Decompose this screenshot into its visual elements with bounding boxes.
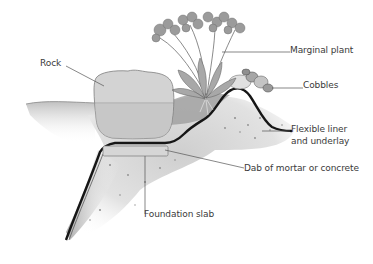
label-cobbles: Cobbles [303, 80, 338, 91]
label-foundation-slab: Foundation slab [144, 209, 214, 220]
foundation-slab [103, 146, 168, 156]
water-area [26, 102, 95, 143]
label-mortar: Dab of mortar or concrete [244, 163, 359, 174]
rock [94, 70, 174, 139]
pond-edge-diagram: Rock Marginal plant Cobbles Flexible lin… [0, 0, 373, 264]
label-underlay: and underlay [291, 136, 349, 147]
label-flexible-liner: Flexible liner [291, 124, 347, 135]
cobbles [229, 69, 273, 92]
label-marginal-plant: Marginal plant [290, 45, 353, 56]
label-rock: Rock [40, 58, 61, 69]
